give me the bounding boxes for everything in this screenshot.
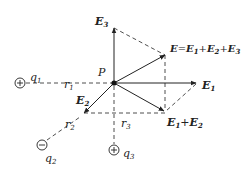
e1-to-e12-dash	[166, 84, 196, 111]
q2-label: q2	[45, 152, 57, 166]
e3-to-e-dash	[114, 28, 165, 55]
charge-q1	[15, 78, 25, 88]
e-total-vector	[114, 55, 165, 83]
e-total-label: E=E1+E2+E3	[169, 43, 240, 56]
r2-label: r2	[65, 118, 75, 132]
r3-label: r3	[121, 117, 131, 131]
charge-q3	[109, 145, 119, 155]
field-superposition-diagram: P q1 q2 q3 r1 r2 r3 E3 E1 E2 E1+E2 E=E1+…	[0, 0, 241, 177]
e1-plus-e2-label: E1+E2	[166, 116, 203, 130]
e3-label: E3	[94, 15, 108, 29]
charge-q2	[37, 140, 47, 150]
e2-label: E2	[75, 94, 89, 108]
e2-vector	[84, 83, 114, 113]
q1-label: q1	[30, 71, 42, 85]
point-p-label: P	[97, 66, 106, 79]
r1-label: r1	[64, 78, 74, 92]
r2-line	[47, 117, 80, 140]
distance-lines	[26, 83, 114, 144]
e12-vector	[114, 83, 164, 111]
q3-label: q3	[123, 147, 135, 161]
point-p-dot	[111, 80, 116, 85]
e1-label: E1	[201, 79, 215, 93]
